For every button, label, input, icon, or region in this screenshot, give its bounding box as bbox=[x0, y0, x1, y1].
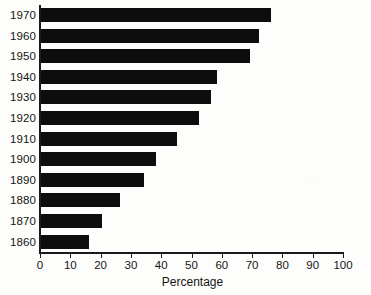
x-tick bbox=[70, 253, 71, 258]
bar-row: 1880 bbox=[0, 190, 371, 210]
bar bbox=[41, 173, 144, 187]
bar-row: 1920 bbox=[0, 108, 371, 128]
bar-row: 1960 bbox=[0, 26, 371, 46]
bar-category-label: 1970 bbox=[0, 5, 36, 25]
bar-row: 1890 bbox=[0, 170, 371, 190]
bar-category-label: 1920 bbox=[0, 108, 36, 128]
bar bbox=[41, 49, 250, 63]
bar bbox=[41, 8, 271, 22]
x-tick bbox=[40, 253, 41, 258]
bar-category-label: 1930 bbox=[0, 87, 36, 107]
bar-category-label: 1860 bbox=[0, 232, 36, 252]
bar-category-label: 1910 bbox=[0, 129, 36, 149]
x-tick bbox=[192, 253, 193, 258]
x-tick-label: 100 bbox=[323, 259, 363, 271]
bar-category-label: 1880 bbox=[0, 190, 36, 210]
x-tick bbox=[282, 253, 283, 258]
bar bbox=[41, 111, 199, 125]
bar-category-label: 1940 bbox=[0, 67, 36, 87]
bar bbox=[41, 132, 177, 146]
bar-category-label: 1890 bbox=[0, 170, 36, 190]
bar-row: 1930 bbox=[0, 87, 371, 107]
bar-category-label: 1960 bbox=[0, 26, 36, 46]
bar bbox=[41, 235, 89, 249]
bar-category-label: 1900 bbox=[0, 149, 36, 169]
bar bbox=[41, 193, 120, 207]
bar bbox=[41, 214, 102, 228]
bar-row: 1940 bbox=[0, 67, 371, 87]
x-tick bbox=[343, 253, 344, 258]
bar bbox=[41, 70, 217, 84]
x-tick bbox=[101, 253, 102, 258]
bar bbox=[41, 152, 156, 166]
bar-row: 1900 bbox=[0, 149, 371, 169]
bar-row: 1950 bbox=[0, 46, 371, 66]
bar-row: 1860 bbox=[0, 232, 371, 252]
bar-chart: 1970196019501940193019201910190018901880… bbox=[0, 0, 371, 295]
x-tick bbox=[313, 253, 314, 258]
x-tick bbox=[131, 253, 132, 258]
x-tick bbox=[161, 253, 162, 258]
bar-row: 1870 bbox=[0, 211, 371, 231]
chart-page: 1970196019501940193019201910190018901880… bbox=[0, 0, 371, 295]
bar bbox=[41, 90, 211, 104]
bar-category-label: 1870 bbox=[0, 211, 36, 231]
x-axis-title: Percentage bbox=[40, 275, 345, 289]
bar bbox=[41, 29, 259, 43]
x-tick bbox=[222, 253, 223, 258]
bar-category-label: 1950 bbox=[0, 46, 36, 66]
bar-row: 1970 bbox=[0, 5, 371, 25]
x-tick bbox=[252, 253, 253, 258]
bar-row: 1910 bbox=[0, 129, 371, 149]
